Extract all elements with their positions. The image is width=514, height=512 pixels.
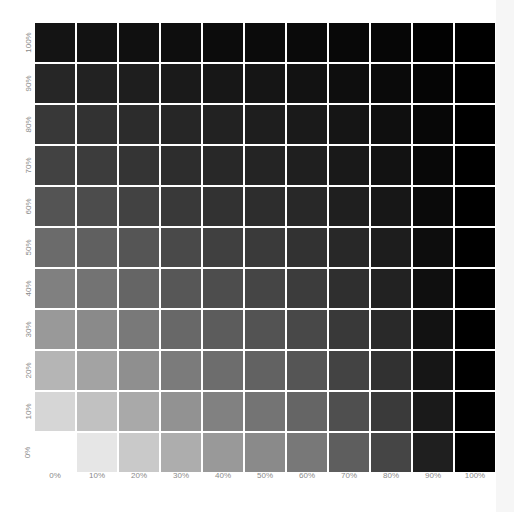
tint-cell xyxy=(371,392,411,431)
tint-cell xyxy=(245,269,285,308)
tint-cell xyxy=(245,310,285,349)
tint-cell xyxy=(161,228,201,267)
tint-cell xyxy=(455,310,495,349)
tint-cell xyxy=(35,310,75,349)
tint-cell xyxy=(371,269,411,308)
tint-cell xyxy=(287,392,327,431)
tint-cell xyxy=(455,187,495,226)
x-tick-label: 20% xyxy=(119,471,159,480)
tint-cell xyxy=(455,23,495,62)
tint-cell xyxy=(455,146,495,185)
tint-cell xyxy=(455,269,495,308)
tint-cell xyxy=(287,187,327,226)
tint-cell xyxy=(77,105,117,144)
tint-cell xyxy=(413,351,453,390)
y-tick-text: 30% xyxy=(24,321,33,337)
tint-cell xyxy=(203,310,243,349)
tint-cell xyxy=(329,433,369,472)
tint-cell xyxy=(455,351,495,390)
tint-cell xyxy=(329,269,369,308)
y-tick-label: 70% xyxy=(22,146,34,185)
tint-cell xyxy=(203,433,243,472)
tint-cell xyxy=(35,23,75,62)
tint-cell xyxy=(329,310,369,349)
tint-cell xyxy=(77,228,117,267)
tint-cell xyxy=(329,23,369,62)
tint-cell xyxy=(371,433,411,472)
tint-cell xyxy=(161,187,201,226)
tint-cell xyxy=(329,105,369,144)
y-tick-text: 50% xyxy=(24,239,33,255)
tint-cell xyxy=(161,105,201,144)
tint-cell xyxy=(77,433,117,472)
y-tick-label: 80% xyxy=(22,105,34,144)
tint-cell xyxy=(35,228,75,267)
tint-cell xyxy=(203,392,243,431)
tint-cell xyxy=(371,105,411,144)
tint-cell xyxy=(371,351,411,390)
tint-cell xyxy=(119,310,159,349)
tint-cell xyxy=(287,64,327,103)
tint-cell xyxy=(287,228,327,267)
tint-cell xyxy=(35,433,75,472)
tint-cell xyxy=(455,228,495,267)
tint-cell xyxy=(455,105,495,144)
tint-cell xyxy=(203,146,243,185)
y-tick-label: 30% xyxy=(22,310,34,349)
tint-cell xyxy=(161,351,201,390)
tint-cell xyxy=(35,64,75,103)
tint-cell xyxy=(413,433,453,472)
tint-cell xyxy=(371,146,411,185)
tint-cell xyxy=(287,351,327,390)
y-tick-text: 10% xyxy=(24,403,33,419)
tint-cell xyxy=(35,187,75,226)
x-tick-label: 80% xyxy=(371,471,411,480)
tint-cell xyxy=(119,146,159,185)
y-tick-text: 70% xyxy=(24,157,33,173)
tint-cell xyxy=(413,23,453,62)
tint-cell xyxy=(161,146,201,185)
tint-cell xyxy=(77,64,117,103)
tint-cell xyxy=(203,64,243,103)
tint-cell xyxy=(161,23,201,62)
right-margin-strip xyxy=(496,0,514,512)
tint-cell xyxy=(413,105,453,144)
tint-cell xyxy=(287,105,327,144)
tint-cell xyxy=(35,146,75,185)
tint-cell xyxy=(119,269,159,308)
tint-cell xyxy=(329,228,369,267)
tint-cell xyxy=(287,23,327,62)
tint-cell xyxy=(245,351,285,390)
tint-cell xyxy=(203,23,243,62)
tint-cell xyxy=(119,64,159,103)
x-tick-label: 50% xyxy=(245,471,285,480)
tint-cell xyxy=(371,228,411,267)
tint-cell xyxy=(413,392,453,431)
tint-cell xyxy=(245,146,285,185)
tint-cell xyxy=(77,146,117,185)
tint-cell xyxy=(245,64,285,103)
tint-cell xyxy=(329,351,369,390)
x-tick-label: 30% xyxy=(161,471,201,480)
tint-cell xyxy=(161,310,201,349)
tint-cell xyxy=(329,187,369,226)
tint-cell xyxy=(77,23,117,62)
tint-cell xyxy=(287,269,327,308)
tint-cell xyxy=(119,392,159,431)
tint-cell xyxy=(371,64,411,103)
y-tick-text: 60% xyxy=(24,198,33,214)
tint-cell xyxy=(413,310,453,349)
tint-cell xyxy=(203,187,243,226)
x-tick-label: 70% xyxy=(329,471,369,480)
tint-cell xyxy=(413,269,453,308)
y-tick-label: 90% xyxy=(22,64,34,103)
tint-cell xyxy=(455,64,495,103)
tint-cell xyxy=(77,310,117,349)
y-tick-text: 0% xyxy=(24,447,33,459)
y-tick-label: 100% xyxy=(22,23,34,62)
tint-cell xyxy=(245,23,285,62)
tint-cell xyxy=(77,269,117,308)
y-tick-text: 40% xyxy=(24,280,33,296)
x-tick-label: 90% xyxy=(413,471,453,480)
tint-cell xyxy=(203,228,243,267)
